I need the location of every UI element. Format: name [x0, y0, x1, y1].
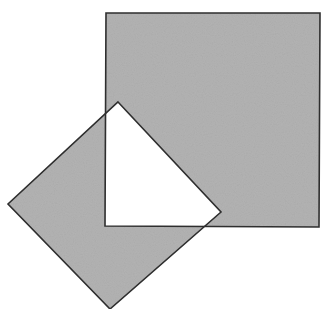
- overlapping-squares-figure: [0, 0, 327, 309]
- diagram-canvas: [0, 0, 327, 309]
